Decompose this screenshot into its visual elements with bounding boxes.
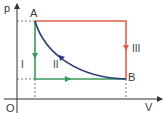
pv-diagram: p V O III I II A B <box>0 0 164 118</box>
y-axis-label: p <box>4 2 10 14</box>
point-a-label: A <box>30 7 38 19</box>
process-i-label: I <box>21 59 24 70</box>
process-i-down-arrow-icon <box>32 53 38 59</box>
process-i-right-arrow-icon <box>65 76 71 82</box>
process-iii-label: III <box>132 43 140 54</box>
origin-label: O <box>6 102 15 114</box>
process-i-path <box>32 21 126 82</box>
dashed-guides <box>17 21 126 99</box>
process-ii-label: II <box>53 59 59 70</box>
point-b-label: B <box>128 71 135 83</box>
process-iii-arrow-icon <box>123 45 129 51</box>
x-axis-label: V <box>145 101 153 113</box>
process-ii-path <box>35 21 126 79</box>
